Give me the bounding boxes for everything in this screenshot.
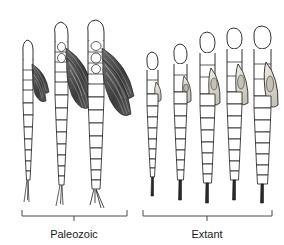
- p1-thorax: [23, 60, 33, 92]
- e4-cerci: [233, 180, 236, 200]
- e4-head: [227, 28, 242, 49]
- e5-head: [254, 26, 271, 49]
- specimen-comparison-figure: Paleozoic Extant: [0, 0, 284, 245]
- e2-cerci: [179, 180, 182, 200]
- p2-head: [55, 22, 68, 44]
- e3-cerci: [206, 183, 209, 203]
- p1-head: [23, 40, 33, 62]
- e5-abdomen: [254, 96, 271, 184]
- p3-head: [88, 20, 104, 43]
- e1-head: [147, 52, 158, 70]
- group-label-paleozoic: Paleozoic: [50, 228, 98, 240]
- e2-head: [174, 44, 187, 64]
- group-label-extant: Extant: [191, 228, 222, 240]
- e5-cerci: [261, 184, 264, 203]
- e1-cerci: [151, 177, 154, 196]
- e3-head: [200, 32, 215, 53]
